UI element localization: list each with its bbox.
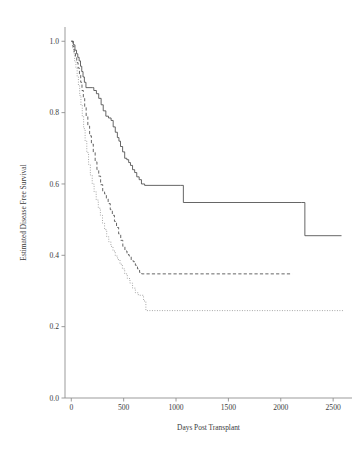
y-tick-label: 1.0 — [50, 37, 60, 46]
plot-background — [0, 0, 364, 454]
survival-curve-figure: 0.00.20.40.60.81.0 Estimated Disease Fre… — [0, 0, 364, 454]
x-tick-label: 0 — [69, 403, 73, 412]
x-tick-label: 500 — [118, 403, 130, 412]
y-tick-label: 0.6 — [50, 180, 60, 189]
y-tick-label: 0.0 — [50, 394, 60, 403]
x-tick-label: 1000 — [168, 403, 183, 412]
y-tick-label: 0.8 — [50, 108, 60, 117]
x-tick-label: 2500 — [326, 403, 341, 412]
y-tick-label: 0.4 — [50, 251, 60, 260]
x-tick-label: 2000 — [273, 403, 288, 412]
y-tick-label: 0.2 — [50, 322, 60, 331]
x-tick-label: 1500 — [221, 403, 236, 412]
kaplan-meier-plot: 0.00.20.40.60.81.0 Estimated Disease Fre… — [0, 0, 364, 454]
y-axis-title: Estimated Disease Free Survival — [19, 164, 28, 260]
x-axis-title: Days Post Transplant — [177, 423, 241, 432]
